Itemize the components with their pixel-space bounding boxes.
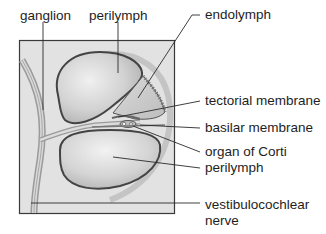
label-basilar-membrane: basilar membrane xyxy=(205,120,313,135)
cochlea-diagram: ganglion perilymph endolymph tectorial m… xyxy=(0,0,326,234)
label-perilymph-top: perilymph xyxy=(89,8,148,23)
label-nerve: nerve xyxy=(205,213,239,228)
label-tectorial-membrane: tectorial membrane xyxy=(205,93,321,108)
label-perilymph-bottom: perilymph xyxy=(205,160,264,175)
label-vestibulocochlear: vestibulocochlear xyxy=(205,197,310,212)
label-organ-of-corti: organ of Corti xyxy=(205,144,287,159)
label-endolymph: endolymph xyxy=(205,7,271,22)
label-ganglion: ganglion xyxy=(20,8,71,23)
